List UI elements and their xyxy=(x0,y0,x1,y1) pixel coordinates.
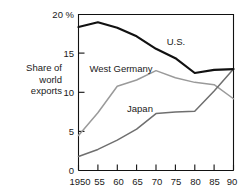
y-tick-label-20: 20 % xyxy=(52,9,74,20)
y-tick-labels: 20 % 15 10 5 0 xyxy=(52,9,74,176)
series-line-japan xyxy=(79,69,234,156)
x-tick-label-1950: 1950 xyxy=(69,176,90,187)
chart-container: Share of world exports 20 % 15 10 5 0 xyxy=(0,0,246,194)
annotation-us: U.S. xyxy=(167,36,185,47)
y-tick-label-10: 10 xyxy=(63,87,74,98)
x-tick-label-1955: 55 xyxy=(94,176,105,187)
annotation-japan: Japan xyxy=(127,103,153,114)
x-tick-label-1990: 90 xyxy=(227,176,238,187)
series-line-west-germany xyxy=(79,71,234,136)
series-lines xyxy=(79,22,234,156)
x-tick-labels: 1950 55 60 65 70 75 80 85 90 xyxy=(69,176,237,187)
x-tick-label-1965: 65 xyxy=(132,176,143,187)
line-chart: 20 % 15 10 5 0 1950 55 60 65 70 75 80 85 xyxy=(0,0,246,194)
x-tick-marks xyxy=(79,165,234,171)
x-tick-label-1960: 60 xyxy=(113,176,124,187)
x-tick-label-1980: 80 xyxy=(190,176,201,187)
y-tick-label-0: 0 xyxy=(69,165,74,176)
x-tick-label-1970: 70 xyxy=(152,176,163,187)
y-tick-label-15: 15 xyxy=(63,48,74,59)
x-tick-label-1975: 75 xyxy=(171,176,182,187)
y-tick-marks xyxy=(79,53,85,131)
annotation-west-germany: West Germany xyxy=(89,63,152,74)
y-tick-label-5: 5 xyxy=(69,126,74,137)
series-annotations: U.S. West Germany Japan xyxy=(89,36,185,114)
x-tick-label-1985: 85 xyxy=(209,176,220,187)
